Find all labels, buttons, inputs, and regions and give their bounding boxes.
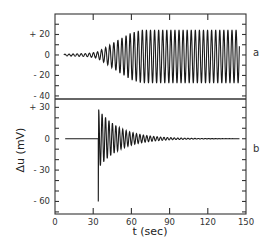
- svg-text:- 30: - 30: [33, 165, 50, 175]
- svg-text:150: 150: [238, 217, 254, 227]
- svg-text:- 60: - 60: [33, 196, 50, 206]
- svg-text:30: 30: [88, 217, 99, 227]
- svg-text:- 20: - 20: [33, 70, 50, 80]
- svg-text:+ 20: + 20: [29, 29, 50, 39]
- axis-ticks: [55, 14, 246, 214]
- panel-label-a: a: [253, 47, 259, 58]
- svg-text:0: 0: [45, 50, 50, 60]
- x-axis-label: t (sec): [133, 225, 168, 238]
- trace-panel-a: [64, 30, 239, 83]
- y-axis-label: Δu (mV): [14, 128, 27, 173]
- svg-text:120: 120: [200, 217, 216, 227]
- svg-text:- 40: - 40: [33, 91, 50, 101]
- figure: 0306090120150+ 200- 20- 40+ 300- 30- 60 …: [0, 0, 269, 246]
- plot-frame: [55, 14, 246, 214]
- svg-text:+ 30: + 30: [29, 102, 50, 112]
- trace-panel-b: [65, 109, 239, 201]
- panel-label-b: b: [253, 143, 259, 154]
- svg-text:0: 0: [45, 134, 50, 144]
- svg-text:0: 0: [52, 217, 57, 227]
